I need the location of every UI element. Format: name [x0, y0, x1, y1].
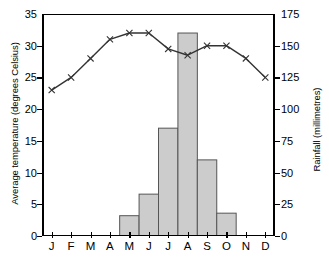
- right-tick-mark: [275, 173, 280, 174]
- x-axis-label: J: [165, 240, 171, 252]
- x-axis-label: M: [86, 240, 96, 252]
- right-tick-label: 150: [281, 40, 299, 52]
- x-axis-label: D: [261, 240, 269, 252]
- x-axis-tick-mark: [265, 232, 266, 238]
- x-axis-labels: JFMAMJJASOND: [42, 240, 275, 260]
- x-axis-tick-marks: [42, 232, 275, 240]
- left-tick-label: 35: [25, 8, 37, 20]
- x-axis-label: A: [184, 240, 192, 252]
- left-tick-label: 15: [25, 135, 37, 147]
- x-axis-tick-mark: [168, 232, 169, 238]
- left-tick-label: 20: [25, 103, 37, 115]
- x-axis-tick-mark: [91, 232, 92, 238]
- right-tick-mark: [275, 236, 280, 237]
- right-tick-label: 125: [281, 71, 299, 83]
- x-axis-label: J: [49, 240, 55, 252]
- x-axis-label: F: [68, 240, 75, 252]
- x-axis-tick-mark: [246, 232, 247, 238]
- x-axis-label: A: [106, 240, 114, 252]
- rainfall-bar: [178, 33, 197, 236]
- x-axis-tick-mark: [71, 232, 72, 238]
- x-axis-tick-mark: [110, 232, 111, 238]
- plot-frame-left: [42, 14, 44, 236]
- plot-svg: [42, 14, 275, 236]
- plot-frame-right: [273, 14, 275, 236]
- x-axis-tick-mark: [226, 232, 227, 238]
- temperature-marker: [243, 55, 249, 61]
- x-axis-label: N: [242, 240, 250, 252]
- right-tick-mark: [275, 46, 280, 47]
- temperature-line: [52, 33, 266, 90]
- x-axis-label: S: [203, 240, 211, 252]
- right-tick-mark: [275, 109, 280, 110]
- plot-frame-top: [42, 14, 275, 15]
- right-tick-label: 175: [281, 8, 299, 20]
- x-axis-label: O: [222, 240, 231, 252]
- right-tick-mark: [275, 204, 280, 205]
- right-tick-label: 25: [281, 198, 293, 210]
- x-axis-tick-mark: [52, 232, 53, 238]
- x-axis-tick-mark: [129, 232, 130, 238]
- right-axis-ticks: 0255075100125150175: [281, 14, 315, 236]
- plot-area: [42, 14, 275, 236]
- climograph-chart: Average temperature (degrees Celsius) Ra…: [0, 0, 329, 273]
- rainfall-bar: [159, 128, 178, 236]
- x-axis-tick-mark: [188, 232, 189, 238]
- right-tick-label: 75: [281, 135, 293, 147]
- rainfall-bar: [139, 194, 158, 236]
- x-axis-label: M: [125, 240, 135, 252]
- temperature-marker: [262, 74, 268, 80]
- right-tick-mark: [275, 141, 280, 142]
- temperature-marker: [49, 87, 55, 93]
- left-tick-label: 10: [25, 167, 37, 179]
- temperature-marker: [68, 74, 74, 80]
- rainfall-bar: [197, 160, 216, 236]
- right-tick-mark: [275, 77, 280, 78]
- right-tick-label: 100: [281, 103, 299, 115]
- left-axis-ticks: 05101520253035: [0, 14, 37, 236]
- left-tick-label: 30: [25, 40, 37, 52]
- right-tick-label: 50: [281, 167, 293, 179]
- x-axis-label: J: [146, 240, 152, 252]
- x-axis-tick-mark: [207, 232, 208, 238]
- temperature-marker: [87, 55, 93, 61]
- left-tick-label: 25: [25, 71, 37, 83]
- x-axis-tick-mark: [149, 232, 150, 238]
- right-tick-label: 0: [281, 230, 287, 242]
